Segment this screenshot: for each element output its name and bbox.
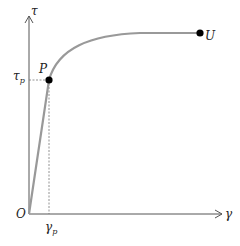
point-p-label: P <box>39 63 47 75</box>
origin-label: O <box>16 208 26 220</box>
diagram-canvas <box>0 0 240 246</box>
tau-subscript: p <box>20 76 25 85</box>
x-axis-label: γ <box>225 208 232 220</box>
point-p <box>45 76 52 83</box>
tau-symbol: τ <box>13 69 20 83</box>
y-axis-label: τ <box>31 5 38 17</box>
gamma-subscript: p <box>52 227 57 236</box>
gamma-p-label: γp <box>45 221 57 236</box>
diagram: τ γ O P U τp γp <box>0 0 240 246</box>
tau-p-label: τp <box>13 70 25 85</box>
point-u-label: U <box>205 30 215 42</box>
stress-strain-curve <box>29 33 200 214</box>
point-u <box>196 29 203 36</box>
